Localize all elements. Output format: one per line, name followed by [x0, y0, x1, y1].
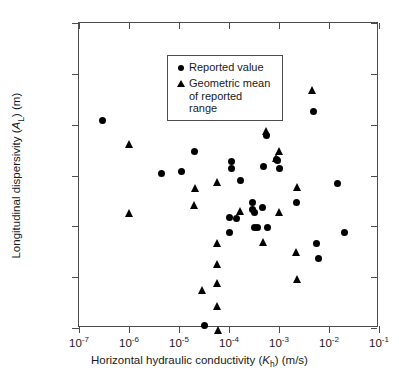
y-axis-title-symbol: A — [10, 122, 22, 130]
x-axis-title-symbol: K — [262, 354, 270, 366]
x-axis-title-suffix: ) (m/s) — [275, 354, 308, 366]
data-point-geometric-mean — [198, 286, 206, 294]
x-tick-top — [379, 23, 380, 29]
x-axis-title-prefix: Horizontal hydraulic conductivity ( — [91, 354, 262, 366]
data-point-geometric-mean — [213, 239, 221, 247]
y-tick-right — [371, 125, 377, 126]
data-point-geometric-mean — [236, 207, 244, 215]
data-point-reported — [228, 158, 235, 165]
legend-triangle-icon — [176, 77, 189, 90]
x-tick — [229, 326, 230, 333]
scatter-plot-figure: Longitudinal dispersivity (AL) (m) Horiz… — [0, 0, 399, 383]
legend-item-label: Reported value — [189, 61, 264, 74]
y-tick — [72, 23, 79, 24]
x-tick — [129, 326, 130, 333]
data-point-reported — [226, 229, 233, 236]
y-tick — [72, 328, 79, 329]
data-point-geometric-mean — [191, 184, 199, 192]
data-point-reported — [249, 199, 256, 206]
data-point-geometric-mean — [272, 154, 280, 162]
data-point-geometric-mean — [213, 302, 221, 310]
legend-circle-icon — [176, 61, 189, 74]
y-tick-right — [371, 23, 377, 24]
data-point-geometric-mean — [293, 183, 301, 191]
data-point-reported — [228, 165, 235, 172]
data-point-reported — [276, 165, 283, 172]
x-tick-top — [279, 23, 280, 29]
data-point-reported — [264, 224, 271, 231]
data-point-geometric-mean — [308, 86, 316, 94]
data-point-geometric-mean — [262, 127, 270, 135]
y-tick-right — [371, 277, 377, 278]
legend: Reported value Geometric mean of reporte… — [167, 55, 283, 121]
x-tick-top — [179, 23, 180, 29]
y-axis-title-prefix: Longitudinal dispersivity ( — [10, 129, 22, 258]
data-point-geometric-mean — [275, 147, 283, 155]
data-point-geometric-mean — [213, 260, 221, 268]
data-point-geometric-mean — [125, 140, 133, 148]
data-point-reported — [99, 117, 106, 124]
legend-item: Geometric mean of reported range — [176, 77, 276, 115]
data-point-reported — [310, 108, 317, 115]
data-point-reported — [293, 199, 300, 206]
y-tick — [72, 74, 79, 75]
x-tick-top — [129, 23, 130, 29]
data-point-reported — [201, 322, 208, 329]
y-tick-right — [371, 226, 377, 227]
data-point-reported — [334, 180, 341, 187]
data-point-reported — [315, 255, 322, 262]
y-tick — [72, 176, 79, 177]
data-point-reported — [237, 177, 244, 184]
x-tick-top — [329, 23, 330, 29]
x-tick — [329, 326, 330, 333]
x-tick-top — [79, 23, 80, 29]
data-point-reported — [233, 215, 240, 222]
x-tick — [179, 326, 180, 333]
data-point-geometric-mean — [214, 326, 222, 334]
data-point-geometric-mean — [275, 208, 283, 216]
y-tick-right — [371, 176, 377, 177]
plot-area: 10,0001,000100101.00.10.0110-710-610-510… — [78, 22, 378, 327]
y-tick — [72, 226, 79, 227]
data-point-geometric-mean — [213, 279, 221, 287]
data-point-geometric-mean — [190, 201, 198, 209]
y-tick-right — [371, 328, 377, 329]
data-point-reported — [191, 148, 198, 155]
data-point-reported — [259, 204, 266, 211]
x-tick-top — [229, 23, 230, 29]
y-axis-title: Longitudinal dispersivity (AL) (m) — [10, 21, 25, 331]
y-axis-title-suffix: ) (m) — [10, 93, 22, 117]
data-point-reported — [313, 240, 320, 247]
data-point-geometric-mean — [292, 248, 300, 256]
legend-item-label: Geometric mean of reported range — [189, 77, 270, 115]
x-tick — [379, 326, 380, 333]
y-axis-title-subscript: L — [16, 117, 26, 122]
x-axis-title: Horizontal hydraulic conductivity (Kh) (… — [0, 354, 399, 369]
x-tick-label: 10-1 — [349, 334, 399, 349]
data-point-reported — [158, 170, 165, 177]
data-point-geometric-mean — [213, 178, 221, 186]
data-point-geometric-mean — [259, 238, 267, 246]
data-point-reported — [226, 214, 233, 221]
legend-item: Reported value — [176, 61, 276, 74]
data-point-reported — [178, 168, 185, 175]
y-tick — [72, 125, 79, 126]
data-point-reported — [341, 229, 348, 236]
data-point-geometric-mean — [125, 209, 133, 217]
data-point-geometric-mean — [293, 275, 301, 283]
data-point-reported — [251, 209, 258, 216]
y-tick-right — [371, 74, 377, 75]
y-tick — [72, 277, 79, 278]
data-point-reported — [254, 224, 261, 231]
x-tick — [79, 326, 80, 333]
data-point-reported — [260, 163, 267, 170]
x-tick — [279, 326, 280, 333]
